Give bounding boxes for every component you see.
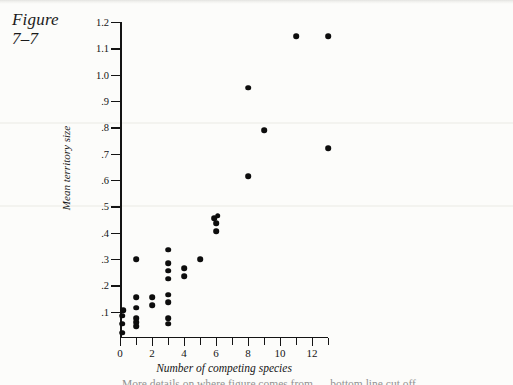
caption-clipped: More details on where figure comes from … [122, 378, 512, 385]
y-tick-label: .2 [101, 280, 109, 291]
x-tick [136, 338, 137, 345]
y-axis-line [120, 22, 122, 338]
data-point [165, 247, 171, 253]
figure-number-line2: 7–7 [12, 29, 59, 48]
y-tick-label: .8 [101, 122, 109, 133]
x-tick-label: 12 [307, 347, 318, 359]
y-tick [111, 154, 120, 155]
y-tick-label: .3 [101, 254, 109, 265]
x-tick-label: 4 [181, 347, 187, 359]
x-tick-label: 6 [213, 347, 219, 359]
y-tick-label: .6 [101, 175, 109, 186]
y-tick [111, 101, 120, 102]
y-tick-label: 1.2 [96, 17, 109, 28]
data-point [325, 34, 331, 40]
data-point [133, 256, 139, 262]
y-tick-label: 1.1 [96, 43, 109, 54]
data-point [120, 321, 126, 327]
x-tick [152, 338, 153, 346]
data-point [215, 213, 221, 219]
figure-number-line1: Figure [12, 10, 59, 29]
data-point [165, 260, 171, 266]
scan-edge-artifact [0, 0, 513, 4]
y-tick [111, 285, 120, 286]
data-point [120, 313, 126, 319]
data-point [181, 265, 187, 271]
x-tick [312, 338, 313, 346]
y-axis-title: Mean territory size [60, 126, 72, 210]
data-point [165, 276, 171, 282]
x-tick [328, 338, 329, 345]
y-tick [111, 127, 120, 128]
data-point [325, 146, 331, 152]
x-tick [280, 338, 281, 346]
data-point [133, 294, 139, 300]
y-tick-label: 1.0 [96, 69, 109, 80]
x-tick [168, 338, 169, 345]
y-tick-label: .5 [101, 201, 109, 212]
x-tick [200, 338, 201, 345]
x-tick-label: 10 [275, 347, 286, 359]
figure-page: Figure 7–7 Mean territory size 1.21.11.0… [0, 0, 513, 385]
data-point [165, 315, 171, 321]
y-tick [111, 233, 120, 234]
y-tick-label: .9 [101, 96, 109, 107]
data-point [165, 321, 171, 327]
data-point [165, 268, 171, 274]
data-point [165, 292, 171, 298]
data-point [133, 305, 139, 311]
y-tick [111, 206, 120, 207]
y-tick [111, 75, 120, 76]
data-point [149, 302, 155, 308]
y-tick-label: .4 [101, 227, 109, 238]
x-tick [216, 338, 217, 346]
figure-number: Figure 7–7 [12, 10, 59, 48]
x-tick [232, 338, 233, 345]
data-point [245, 85, 251, 91]
x-tick-label: 2 [149, 347, 155, 359]
y-tick-label: .1 [101, 306, 109, 317]
data-point [133, 315, 139, 321]
y-tick [111, 312, 120, 313]
y-tick [111, 259, 120, 260]
data-point [165, 300, 171, 306]
x-tick [296, 338, 297, 345]
x-tick [120, 338, 121, 346]
x-tick-label: 8 [245, 347, 251, 359]
data-point [120, 308, 126, 314]
x-axis-title: Number of competing species [156, 362, 292, 374]
data-point [197, 256, 203, 262]
data-point [149, 294, 155, 300]
x-tick [248, 338, 249, 346]
data-point [213, 221, 219, 227]
data-point [181, 273, 187, 279]
data-point [245, 173, 251, 179]
data-point [213, 229, 219, 235]
x-tick-label: 0 [117, 347, 123, 359]
y-tick [111, 180, 120, 181]
y-tick [111, 22, 120, 23]
y-tick [111, 48, 120, 49]
data-point [120, 330, 126, 336]
y-tick-label: .7 [101, 148, 109, 159]
data-point [293, 34, 299, 40]
scatter-plot: 1.21.11.0.9.8.7.6.5.4.3.2.1 024681012 [120, 22, 328, 338]
data-point [261, 127, 267, 133]
x-tick [264, 338, 265, 345]
x-tick [184, 338, 185, 346]
